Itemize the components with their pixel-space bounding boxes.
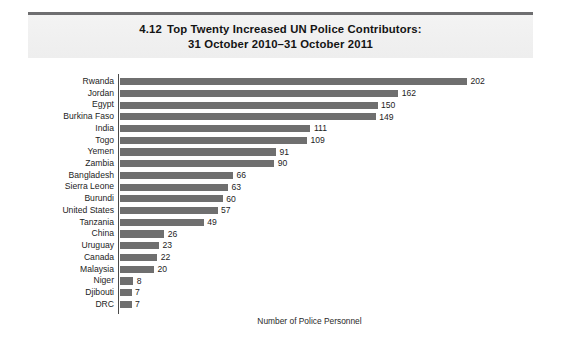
bar bbox=[120, 242, 160, 249]
bar bbox=[120, 301, 132, 308]
bar-row: Djibouti7 bbox=[0, 287, 561, 299]
category-label: Egypt bbox=[92, 99, 114, 111]
category-label: Uruguay bbox=[82, 240, 114, 252]
figure-number: 4.12 bbox=[139, 23, 162, 35]
figure-title-text: Top Twenty Increased UN Police Contribut… bbox=[167, 23, 422, 35]
bar-value-label: 60 bbox=[226, 194, 236, 206]
bar-value-label: 20 bbox=[157, 264, 167, 276]
bar bbox=[120, 219, 204, 226]
bar-value-label: 111 bbox=[314, 123, 327, 135]
category-label: Bangladesh bbox=[69, 170, 114, 182]
bar-value-label: 66 bbox=[237, 170, 247, 182]
category-label: Malaysia bbox=[80, 264, 114, 276]
bar-row: China26 bbox=[0, 228, 561, 240]
bar-row: India111 bbox=[0, 123, 561, 135]
bar-value-label: 150 bbox=[381, 100, 395, 112]
bar-value-label: 8 bbox=[137, 276, 142, 288]
bar bbox=[120, 102, 378, 109]
bar-value-label: 7 bbox=[135, 287, 140, 299]
category-label: DRC bbox=[95, 299, 114, 311]
bar bbox=[120, 184, 228, 191]
bar-value-label: 202 bbox=[471, 76, 485, 88]
bar-value-label: 162 bbox=[402, 88, 416, 100]
x-axis-label: Number of Police Personnel bbox=[0, 316, 561, 326]
category-label: Burkina Faso bbox=[63, 111, 114, 123]
bar-value-label: 7 bbox=[135, 299, 140, 311]
bar bbox=[120, 195, 223, 202]
bar-row: Niger8 bbox=[0, 275, 561, 287]
bar-row: Yemen91 bbox=[0, 146, 561, 158]
bar bbox=[120, 137, 308, 144]
bar-value-label: 109 bbox=[311, 135, 325, 147]
category-label: Sierra Leone bbox=[65, 181, 114, 193]
bar bbox=[120, 125, 311, 132]
category-label: Jordan bbox=[88, 88, 114, 100]
bar bbox=[120, 160, 275, 167]
bar bbox=[120, 230, 165, 237]
bar bbox=[120, 254, 158, 261]
bar-row: Bangladesh66 bbox=[0, 170, 561, 182]
bar-row: Jordan162 bbox=[0, 88, 561, 100]
category-label: India bbox=[95, 123, 114, 135]
bar-row: Malaysia20 bbox=[0, 264, 561, 276]
bar bbox=[120, 172, 234, 179]
bar bbox=[120, 289, 132, 296]
bar-value-label: 90 bbox=[278, 158, 288, 170]
category-label: China bbox=[92, 228, 114, 240]
bar-row: DRC7 bbox=[0, 299, 561, 311]
figure-title-line-2: 31 October 2010–31 October 2011 bbox=[188, 37, 373, 52]
bar-value-label: 26 bbox=[168, 229, 178, 241]
bar-value-label: 22 bbox=[161, 252, 171, 264]
figure-title-line-1: 4.12Top Twenty Increased UN Police Contr… bbox=[139, 22, 421, 37]
bar bbox=[120, 148, 277, 155]
figure-title-banner: 4.12Top Twenty Increased UN Police Contr… bbox=[28, 12, 533, 58]
bar-value-label: 57 bbox=[221, 205, 231, 217]
bar-row: United States57 bbox=[0, 205, 561, 217]
bar-row: Canada22 bbox=[0, 252, 561, 264]
bar bbox=[120, 113, 376, 120]
bar-value-label: 149 bbox=[379, 112, 393, 124]
bar-chart: Rwanda202Jordan162Egypt150Burkina Faso14… bbox=[0, 68, 561, 339]
category-label: Burundi bbox=[84, 193, 114, 205]
bar-row: Burundi60 bbox=[0, 193, 561, 205]
bar-row: Egypt150 bbox=[0, 99, 561, 111]
category-label: Rwanda bbox=[82, 76, 114, 88]
category-label: Tanzania bbox=[80, 217, 114, 229]
bar-value-label: 23 bbox=[163, 240, 173, 252]
bar-row: Zambia90 bbox=[0, 158, 561, 170]
bar bbox=[120, 266, 154, 273]
bar bbox=[120, 277, 134, 284]
category-label: Canada bbox=[84, 252, 114, 264]
category-label: United States bbox=[62, 205, 114, 217]
category-label: Niger bbox=[93, 275, 114, 287]
bar bbox=[120, 207, 218, 214]
bar-row: Burkina Faso149 bbox=[0, 111, 561, 123]
category-label: Djibouti bbox=[85, 287, 114, 299]
bar-value-label: 49 bbox=[207, 217, 217, 229]
bar-row: Tanzania49 bbox=[0, 217, 561, 229]
bar-value-label: 63 bbox=[231, 182, 241, 194]
bar-value-label: 91 bbox=[280, 147, 290, 159]
bar-row: Rwanda202 bbox=[0, 76, 561, 88]
bar bbox=[120, 90, 399, 97]
bar-row: Sierra Leone63 bbox=[0, 181, 561, 193]
category-label: Zambia bbox=[85, 158, 114, 170]
bar bbox=[120, 78, 468, 85]
category-label: Yemen bbox=[88, 146, 114, 158]
category-label: Togo bbox=[95, 135, 114, 147]
bar-row: Uruguay23 bbox=[0, 240, 561, 252]
plot-area: Rwanda202Jordan162Egypt150Burkina Faso14… bbox=[0, 74, 561, 316]
bar-row: Togo109 bbox=[0, 135, 561, 147]
